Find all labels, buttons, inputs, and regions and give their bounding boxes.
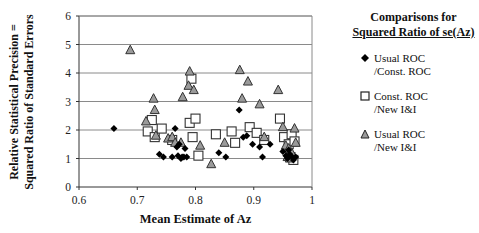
- triangle-point: [235, 65, 244, 74]
- legend-label-line-1: Usual ROC: [374, 52, 479, 65]
- legend-label-line-2: /Const. ROC: [374, 65, 479, 78]
- legend-label-line-2: /New I&I: [374, 141, 479, 154]
- y-tick-labels: 0123456: [65, 10, 71, 193]
- triangle-point: [274, 85, 283, 94]
- x-tick-label: 1: [309, 194, 315, 206]
- legend-item-usual-new: Usual ROC /New I&I: [358, 128, 479, 154]
- legend-label-line-1: Usual ROC: [374, 128, 479, 141]
- y-axis-label: Relative Statistical Precision = Squared…: [2, 16, 42, 187]
- legend-title: Comparisons for Squared Ratio of se(Az): [348, 10, 479, 40]
- triangle-point: [290, 124, 299, 133]
- triangle-point: [149, 94, 158, 103]
- legend-label-line-1: Const. ROC: [374, 90, 479, 103]
- triangle-point: [243, 77, 252, 86]
- square-point: [188, 133, 197, 142]
- y-tick-label: 0: [65, 181, 71, 193]
- diamond-point: [222, 154, 229, 161]
- diamond-marker-icon: [360, 53, 370, 63]
- triangle-point: [255, 99, 264, 108]
- y-tick-label: 5: [65, 39, 71, 51]
- legend-item-usual-const: Usual ROC /Const. ROC: [358, 52, 479, 78]
- diamond-point: [259, 154, 266, 161]
- triangle-point: [220, 138, 229, 147]
- legend-title-line-1: Comparisons for: [348, 10, 479, 25]
- data-points: [110, 45, 300, 168]
- legend-title-line-2: Squared Ratio of se(Az): [348, 25, 479, 40]
- triangle-point: [207, 159, 216, 168]
- x-tick-labels: 0.60.70.80.91: [72, 194, 315, 206]
- y-axis-label-line-2: Squared Ratio of Standard Errors: [22, 14, 37, 190]
- square-point: [227, 127, 236, 136]
- square-point: [231, 138, 240, 147]
- x-tick-label: 0.9: [247, 194, 262, 206]
- square-point: [211, 130, 220, 139]
- legend-item-const-new: Const. ROC /New I&I: [358, 90, 479, 116]
- triangle-point: [150, 105, 159, 114]
- triangle-point: [185, 67, 194, 76]
- x-tick-label: 0.6: [72, 194, 87, 206]
- square-point: [194, 151, 203, 160]
- y-tick-label: 3: [65, 96, 71, 108]
- square-point: [191, 114, 200, 123]
- triangle-point: [178, 92, 187, 101]
- diamond-point: [236, 107, 243, 114]
- square-point: [157, 124, 166, 133]
- axes: [76, 16, 312, 190]
- diamond-point: [215, 149, 222, 156]
- diamond-point: [169, 154, 176, 161]
- y-tick-label: 4: [65, 67, 71, 79]
- triangle-point: [126, 45, 135, 54]
- y-axis-label-line-1: Relative Statistical Precision =: [7, 14, 22, 190]
- diamond-point: [110, 125, 117, 132]
- legend-label-line-2: /New I&I: [374, 103, 479, 116]
- diamond-point: [172, 125, 179, 132]
- x-tick-label: 0.7: [130, 194, 145, 206]
- y-tick-label: 6: [65, 10, 71, 22]
- y-tick-label: 1: [65, 153, 71, 165]
- square-marker-icon: [360, 91, 370, 101]
- diamond-point: [249, 141, 256, 148]
- triangle-point: [238, 94, 247, 103]
- y-tick-label: 2: [65, 124, 71, 136]
- triangle-marker-icon: [360, 129, 370, 139]
- x-tick-label: 0.8: [188, 194, 203, 206]
- legend: Comparisons for Squared Ratio of se(Az) …: [358, 10, 479, 154]
- x-axis-label: Mean Estimate of Az: [79, 212, 312, 227]
